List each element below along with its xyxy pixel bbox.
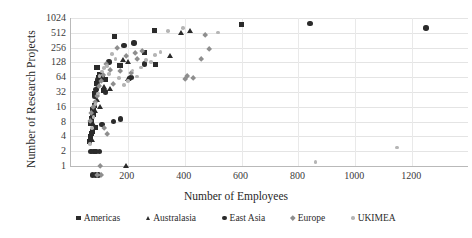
gridline-horizontal [71,136,468,137]
square-marker-icon [76,216,81,221]
plot-area [70,18,468,166]
x-tick-label: 200 [107,170,147,181]
x-axis-title: Number of Employees [0,190,472,202]
gridline-horizontal [71,33,468,34]
y-tick-label: 256 [34,42,66,53]
chart-legend: AmericasAustralasiaEast AsiaEuropeUKIMEA [0,213,472,223]
y-tick-label: 1 [34,160,66,171]
data-point [216,31,220,35]
data-point [114,57,118,61]
data-point [166,29,170,33]
x-tick-label: 400 [164,170,204,181]
gridline-vertical [128,18,129,166]
data-point [90,126,94,130]
data-point [96,92,100,96]
legend-item-europe[interactable]: Europe [291,213,325,223]
dot-marker-icon [351,216,354,219]
gridline-horizontal [71,107,468,108]
data-point [239,22,244,27]
data-point [123,163,129,168]
gridline-vertical [355,18,356,166]
data-point [153,62,158,67]
data-point [110,52,114,56]
data-point [153,53,157,57]
data-point [94,65,99,70]
data-point [98,172,104,178]
x-axis-line [70,166,468,167]
legend-item-label: Americas [84,213,120,223]
data-point [107,72,111,76]
scatter-chart-figure: Number of Research Projects 124816326412… [0,0,472,238]
data-point [122,83,126,87]
y-tick-label: 128 [34,56,66,67]
data-point [89,137,95,142]
y-tick-label: 8 [34,116,66,127]
data-point [92,115,96,119]
data-point [112,34,117,39]
data-point [167,53,173,58]
gridline-vertical [298,18,299,166]
gridline-horizontal [71,48,468,49]
data-point [97,104,103,109]
y-tick-label: 512 [34,27,66,38]
data-point [126,79,130,83]
data-point [117,76,121,80]
data-point [423,25,428,30]
data-point [307,21,312,26]
y-tick-label: 4 [34,130,66,141]
y-tick-label: 1024 [34,12,66,23]
gridline-horizontal [71,122,468,123]
diamond-marker-icon [290,215,295,220]
circle-marker-icon [222,216,227,221]
data-point [88,142,92,146]
legend-item-americas[interactable]: Americas [76,213,120,223]
data-point [395,146,399,150]
legend-item-east-asia[interactable]: East Asia [222,213,265,223]
gridline-vertical [242,18,243,166]
data-point [149,60,153,64]
data-point [103,89,108,94]
data-point [181,26,185,30]
data-point [152,28,157,33]
legend-item-label: Australasia [153,213,196,223]
x-tick-label: 800 [277,170,317,181]
x-tick-label: 1200 [391,170,431,181]
data-point [100,70,104,74]
legend-item-label: Europe [298,213,325,223]
data-point [125,59,131,64]
data-point [121,43,126,48]
data-point [118,116,123,121]
gridline-horizontal [71,92,468,93]
y-tick-label: 2 [34,145,66,156]
gridline-horizontal [71,151,468,152]
y-tick-label: 16 [34,101,66,112]
legend-item-label: East Asia [230,213,266,223]
y-tick-label: 64 [34,71,66,82]
data-point [88,149,93,154]
x-tick-label: 1000 [334,170,374,181]
legend-item-australasia[interactable]: Australasia [146,213,196,223]
y-tick-label: 32 [34,86,66,97]
data-point [178,30,184,35]
data-point [144,58,148,62]
gridline-vertical [185,18,186,166]
data-point [159,50,163,54]
gridline-vertical [412,18,413,166]
data-point [187,28,193,33]
triangle-marker-icon [146,216,150,220]
gridline-horizontal [71,18,468,19]
legend-item-label: UKIMEA [358,213,396,223]
data-point [131,40,136,45]
x-tick-label: 600 [221,170,261,181]
data-point [98,74,102,78]
legend-item-ukimea[interactable]: UKIMEA [351,213,395,223]
